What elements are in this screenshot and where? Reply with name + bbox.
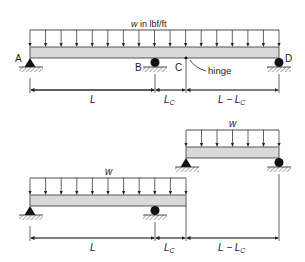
pin-support-a-icon (25, 58, 36, 67)
ground-a-icon (19, 67, 43, 72)
bottom-left-beam-system: w (19, 166, 188, 220)
bottom-dim-lc-label: LC (164, 242, 176, 254)
roller-support-d2-icon (275, 158, 284, 167)
roller-support-b2-icon (151, 206, 160, 215)
hinge-icon (185, 57, 188, 60)
left-load-label: w (105, 166, 113, 177)
hinge-label: hinge (208, 65, 231, 76)
top-beam (30, 47, 279, 58)
bottom-dim-l-label: L (90, 242, 96, 253)
point-a-label: A (15, 53, 22, 64)
roller-support-d-icon (275, 58, 284, 67)
top-dim-l-label: L (90, 94, 96, 105)
top-dim-rest-label: L − LC (218, 94, 246, 106)
top-load-label: w in lbf/ft (131, 19, 167, 29)
top-beam-system: w in lbf/ft A B C hinge D (15, 19, 292, 106)
top-dim-lc-label: LC (164, 94, 176, 106)
point-c-label: C (175, 62, 182, 73)
hinge-leader (190, 60, 206, 71)
point-d-label: D (285, 53, 292, 64)
ground-d-icon (267, 67, 291, 72)
right-distributed-load-arrows (184, 130, 280, 147)
pin-support-a2-icon (25, 206, 36, 215)
bottom-right-beam-system: w (175, 118, 291, 172)
left-distributed-load-arrows (28, 178, 187, 195)
bottom-dim-rest-label: L − LC (218, 242, 246, 254)
right-load-label: w (229, 118, 237, 129)
ground-b-icon (143, 67, 167, 72)
beam-diagram: w in lbf/ft A B C hinge D (0, 0, 305, 262)
top-distributed-load-arrows (28, 30, 280, 47)
roller-support-b-icon (151, 58, 160, 67)
pin-support-c-icon (181, 158, 192, 167)
left-beam (30, 195, 186, 206)
point-b-label: B (135, 62, 142, 73)
right-beam (186, 147, 279, 158)
